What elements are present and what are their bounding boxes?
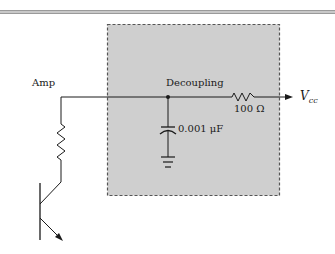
vcc-main: V [300,89,309,103]
transistor-collector [40,182,61,204]
amp-label: Amp [32,77,55,88]
circuit-schematic [0,0,335,254]
vcc-label: Vcc [300,89,318,105]
resistor-value-label: 100 Ω [234,103,265,114]
junction-dot [166,95,170,99]
capacitor-value-label: 0.001 μF [178,123,223,134]
vcc-arrow-icon [285,94,293,100]
vcc-subscript: cc [309,96,318,105]
collector-resistor-icon [57,124,65,160]
decoupling-label: Decoupling [166,77,224,88]
